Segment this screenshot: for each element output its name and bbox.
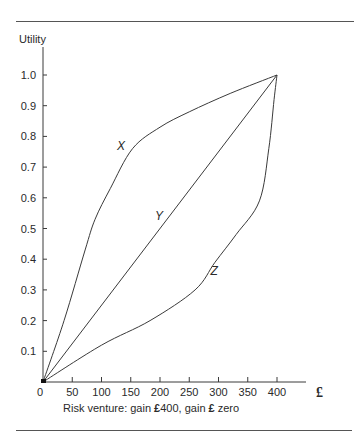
- y-tick-label: 0.8: [21, 130, 36, 142]
- y-tick-label: 0.5: [21, 223, 36, 235]
- x-tick-label: 350: [239, 386, 257, 398]
- x-tick-label: 200: [151, 386, 169, 398]
- curve-label-y: Y: [155, 209, 164, 223]
- y-tick-label: 0.2: [21, 315, 36, 327]
- x-tick-label: 100: [92, 386, 110, 398]
- x-tick-label: 300: [209, 386, 227, 398]
- x-tick-label: 250: [180, 386, 198, 398]
- curve-y: [43, 75, 277, 382]
- y-tick-label: 0.9: [21, 100, 36, 112]
- x-tick-label: 0: [37, 386, 43, 398]
- caption-suffix: zero: [215, 402, 239, 414]
- utility-chart: 0.10.20.30.40.50.60.70.80.91.00501001502…: [0, 0, 358, 441]
- y-tick-label: 0.7: [21, 161, 36, 173]
- curve-label-z: Z: [210, 264, 219, 278]
- y-tick-label: 0.3: [21, 284, 36, 296]
- origin-marker: [41, 379, 46, 383]
- curve-label-x: X: [116, 139, 126, 153]
- x-tick-label: 50: [66, 386, 78, 398]
- caption-prefix: Risk venture: gain: [63, 402, 154, 414]
- x-unit-pound-symbol: £: [316, 385, 323, 400]
- x-tick-label: 400: [268, 386, 286, 398]
- y-tick-label: 0.1: [21, 345, 36, 357]
- y-tick-label: 0.6: [21, 192, 36, 204]
- y-tick-label: 0.4: [21, 253, 36, 265]
- y-tick-label: 1.0: [21, 69, 36, 81]
- x-tick-label: 150: [122, 386, 140, 398]
- caption-mid: 400, gain: [160, 402, 208, 414]
- x-axis-caption: Risk venture: gain £400, gain £ zero: [63, 402, 239, 414]
